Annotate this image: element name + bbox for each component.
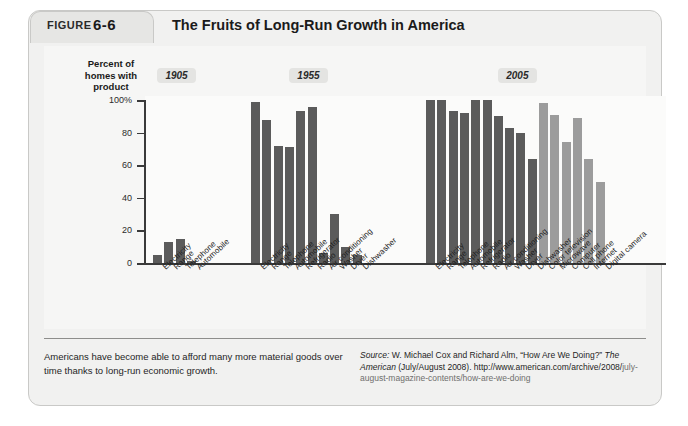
bar — [471, 100, 480, 263]
y-axis-title: Percent of homes with product — [82, 58, 140, 93]
figure-page: FIGURE 6-6 The Fruits of Long-Run Growth… — [0, 0, 688, 426]
bar — [262, 120, 271, 263]
y-tick-label: 60 — [94, 160, 132, 170]
figure-title: The Fruits of Long-Run Growth in America — [172, 17, 465, 33]
y-tick — [137, 198, 145, 200]
y-tick — [137, 230, 145, 232]
footer-divider — [44, 338, 646, 339]
year-label-1905: 1905 — [157, 68, 195, 83]
source-text-1: W. Michael Cox and Richard Alm, “How Are… — [389, 350, 604, 360]
source-text-2: (July/August 2008). http://www.american.… — [396, 362, 622, 372]
figure-number: 6-6 — [93, 16, 116, 33]
bar — [449, 111, 458, 263]
bar — [296, 111, 305, 263]
chart-panel: Percent of homes with product 100%806040… — [44, 46, 646, 329]
figure-tab-label: FIGURE — [47, 19, 92, 31]
bar — [437, 100, 446, 263]
bar — [460, 113, 469, 263]
bar — [426, 100, 435, 263]
y-tick-label: 80 — [94, 128, 132, 138]
y-tick — [137, 100, 145, 102]
bar — [153, 255, 162, 263]
year-label-2005: 2005 — [498, 68, 536, 83]
y-tick-label: 0 — [94, 258, 132, 268]
bar — [251, 102, 260, 263]
y-tick — [137, 133, 145, 135]
x-axis-labels: ElectricityRangeTelephoneAutomobileElect… — [145, 265, 675, 327]
y-tick-label: 20 — [94, 225, 132, 235]
source-label: Source: — [360, 350, 389, 360]
y-tick — [137, 263, 145, 265]
y-tick — [137, 165, 145, 167]
y-tick-label: 40 — [94, 193, 132, 203]
figure-source: Source: W. Michael Cox and Richard Alm, … — [360, 350, 648, 385]
y-tick-label: 100% — [94, 95, 132, 105]
year-label-1955: 1955 — [289, 68, 327, 83]
figure-caption: Americans have become able to afford man… — [44, 350, 344, 378]
bar — [550, 115, 559, 263]
